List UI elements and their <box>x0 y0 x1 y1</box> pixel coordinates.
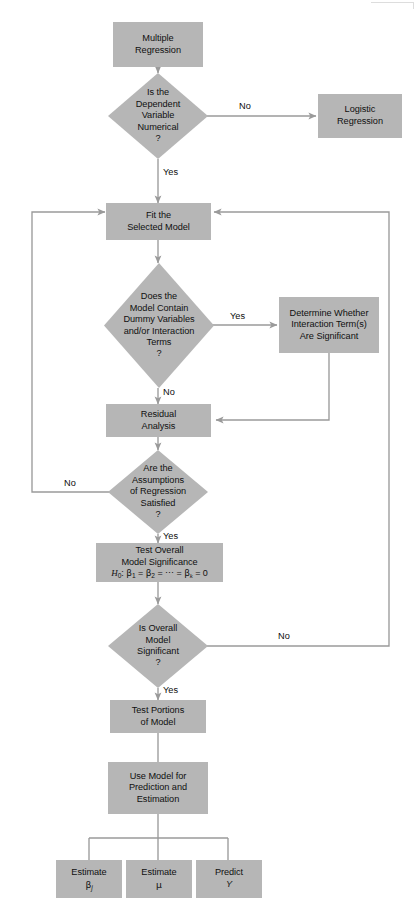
edge-label-numerical-no: No <box>238 101 252 111</box>
line1: Is the <box>136 87 181 98</box>
node-determine-interaction: Determine Whether Interaction Term(s) Ar… <box>279 297 379 353</box>
line3: Variable <box>136 110 181 121</box>
edge-label-overall-no: No <box>277 631 291 641</box>
line1: Are the <box>130 463 186 474</box>
line1: Is Overall <box>137 623 179 634</box>
edge-determine-to-residual <box>216 353 329 420</box>
edge-label-overall-yes: Yes <box>162 685 179 695</box>
node-assumptions-satisfied-label: Are the Assumptions of Regression Satisf… <box>108 450 208 534</box>
node-estimate-mu: Estimate μ <box>126 860 192 898</box>
node-test-overall-significance: Test Overall Model Significance H0: β1 =… <box>96 543 223 582</box>
node-residual-analysis-line1: Residual <box>108 409 209 421</box>
line3: Significant <box>137 646 179 657</box>
node-is-overall-significant: Is Overall Model Significant ? <box>108 604 208 688</box>
node-determine-interaction-line2: Interaction Term(s) <box>281 319 377 331</box>
line3: of Regression <box>130 486 186 497</box>
node-test-portions-line2: of Model <box>112 717 204 729</box>
edge-label-dummy-no: No <box>162 387 176 397</box>
node-use-model: Use Model for Prediction and Estimation <box>108 762 208 814</box>
node-is-overall-significant-label: Is Overall Model Significant ? <box>108 604 208 688</box>
node-is-dependent-numerical-label: Is the Dependent Variable Numerical ? <box>108 73 208 159</box>
line2: Model <box>137 635 179 646</box>
node-determine-interaction-line1: Determine Whether <box>281 308 377 320</box>
line5: ? <box>136 133 181 144</box>
edge-overall-no <box>203 212 389 646</box>
line2: Model Contain <box>123 303 194 314</box>
node-test-portions-line1: Test Portions <box>112 705 204 717</box>
node-estimate-beta: Estimate βj <box>56 860 122 898</box>
node-use-model-line2: Prediction and <box>110 782 206 794</box>
node-test-overall-significance-line2: Model Significance <box>98 557 221 569</box>
edge-label-numerical-yes: Yes <box>162 167 179 177</box>
node-does-model-contain-label: Does the Model Contain Dummy Variables a… <box>104 263 214 388</box>
node-logistic-regression: Logistic Regression <box>318 94 402 138</box>
node-estimate-mu-line1: Estimate <box>128 867 190 879</box>
line3: Dummy Variables <box>123 314 194 325</box>
node-estimate-beta-line1: Estimate <box>58 867 120 879</box>
node-estimate-mu-symbol: μ <box>128 879 190 891</box>
edge-assumptions-no <box>32 212 113 492</box>
node-multiple-regression-line1: Multiple <box>115 33 201 45</box>
line6: ? <box>123 348 194 359</box>
node-logistic-regression-line1: Logistic <box>320 104 400 116</box>
node-test-overall-significance-line1: Test Overall <box>98 545 221 557</box>
line2: Dependent <box>136 99 181 110</box>
node-is-dependent-numerical: Is the Dependent Variable Numerical ? <box>108 73 208 159</box>
line5: ? <box>130 509 186 520</box>
node-use-model-line1: Use Model for <box>110 771 206 783</box>
node-residual-analysis: Residual Analysis <box>106 404 211 437</box>
node-test-overall-significance-formula: H0: β1 = β2 = ⋯ = βk = 0 <box>98 568 221 580</box>
node-test-portions: Test Portions of Model <box>110 700 206 733</box>
node-residual-analysis-line2: Analysis <box>108 421 209 433</box>
node-fit-selected-model: Fit the Selected Model <box>106 203 211 240</box>
node-multiple-regression-line2: Regression <box>115 45 201 57</box>
line1: Does the <box>123 291 194 302</box>
edge-label-assumptions-no: No <box>63 478 77 488</box>
line2: Assumptions <box>130 475 186 486</box>
node-multiple-regression: Multiple Regression <box>113 22 203 67</box>
node-predict-y-line1: Predict <box>198 867 260 879</box>
line4: Numerical <box>136 122 181 133</box>
node-fit-selected-model-line2: Selected Model <box>108 222 209 234</box>
node-determine-interaction-line3: Are Significant <box>281 331 377 343</box>
node-assumptions-satisfied: Are the Assumptions of Regression Satisf… <box>108 450 208 534</box>
node-use-model-line3: Estimation <box>110 794 206 806</box>
edge-label-dummy-yes: Yes <box>229 311 246 321</box>
node-fit-selected-model-line1: Fit the <box>108 210 209 222</box>
node-predict-y-symbol: Y <box>198 879 260 891</box>
line5: Terms <box>123 337 194 348</box>
node-predict-y: Predict Y <box>196 860 262 898</box>
node-does-model-contain: Does the Model Contain Dummy Variables a… <box>104 263 214 388</box>
node-estimate-beta-symbol: βj <box>58 879 120 892</box>
line4: and/or Interaction <box>123 326 194 337</box>
flowchart-page: Logistic Regression --> Fit the Selected… <box>0 0 416 916</box>
node-logistic-regression-line2: Regression <box>320 116 400 128</box>
line4: Satisfied <box>130 498 186 509</box>
edge-label-assumptions-yes: Yes <box>162 531 179 541</box>
line4: ? <box>137 657 179 668</box>
